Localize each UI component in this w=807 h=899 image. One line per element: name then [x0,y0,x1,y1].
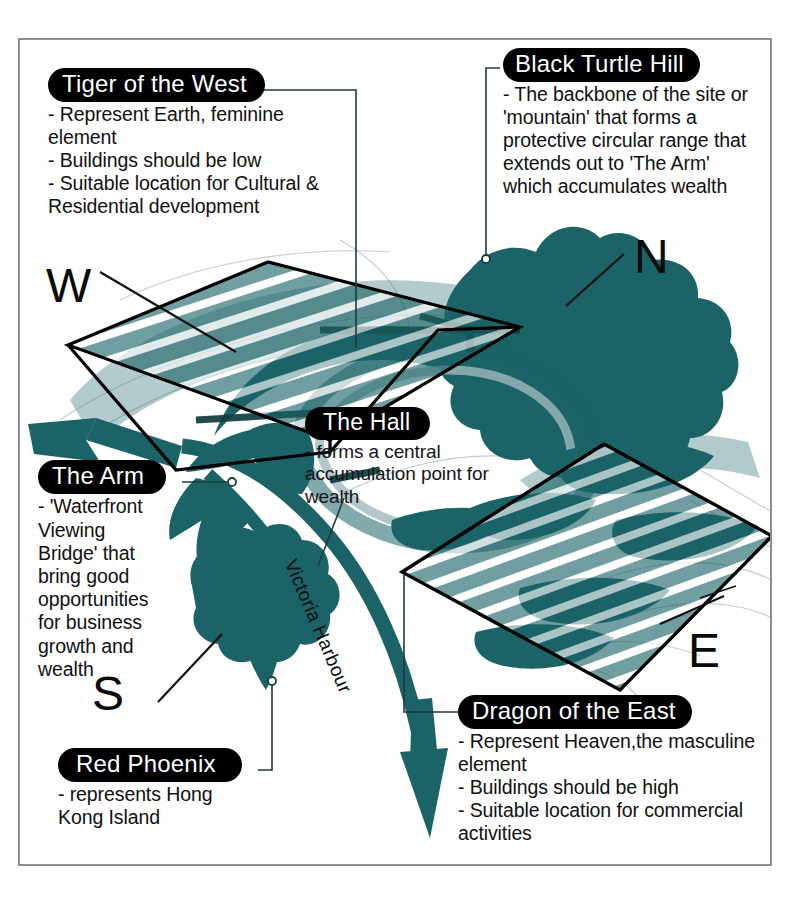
callout-body-tiger-of-the-west: - Represent Earth, feminine element - Bu… [48,103,348,217]
callout-body-the-hall: - forms a central accumulation point for… [305,441,520,508]
callout-body-the-arm: - 'Waterfront Viewing Bridge' that bring… [38,495,188,681]
compass-label-east: E [688,627,720,675]
callout-body-red-phoenix: - represents Hong Kong Island [58,783,288,829]
callout-black-turtle-hill[interactable]: Black Turtle Hill - The backbone of the … [503,48,781,197]
callout-title-the-arm: The Arm [38,460,166,494]
callout-red-phoenix[interactable]: Red Phoenix - represents Hong Kong Islan… [58,748,288,829]
compass-label-north: N [634,233,669,281]
callout-title-the-hall: The Hall [305,407,430,440]
callout-body-black-turtle-hill: - The backbone of the site or 'mountain'… [503,83,781,197]
callout-the-hall[interactable]: The Hall - forms a central accumulation … [305,407,520,508]
compass-label-south: S [92,670,124,718]
diagram-canvas: Tiger of the West - Represent Earth, fem… [0,0,807,899]
callout-the-arm[interactable]: The Arm - 'Waterfront Viewing Bridge' th… [38,460,188,681]
callout-title-dragon-of-the-east: Dragon of the East [458,695,692,729]
compass-label-west: W [46,262,91,310]
callout-title-red-phoenix: Red Phoenix [58,748,242,782]
callout-body-dragon-of-the-east: - Represent Heaven,the masculine element… [458,730,778,844]
callout-dragon-of-the-east[interactable]: Dragon of the East - Represent Heaven,th… [458,695,778,844]
callout-title-black-turtle-hill: Black Turtle Hill [503,48,700,82]
callout-title-tiger-of-the-west: Tiger of the West [48,68,265,102]
callout-tiger-of-the-west[interactable]: Tiger of the West - Represent Earth, fem… [48,68,348,217]
